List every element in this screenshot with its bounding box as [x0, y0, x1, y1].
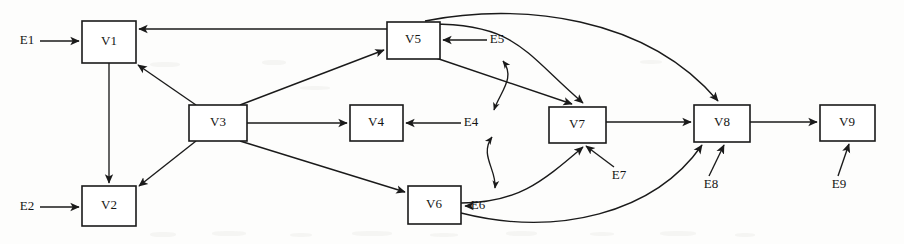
node-v8[interactable]: V8	[694, 105, 750, 142]
bidir-e5-e4	[494, 61, 508, 110]
node-v4[interactable]: V4	[350, 105, 403, 141]
node-v3[interactable]: V3	[189, 105, 247, 141]
node-v2[interactable]: V2	[82, 186, 136, 226]
node-v9[interactable]: V9	[820, 105, 875, 141]
edge-e7-v7	[586, 146, 614, 167]
ext-label-e8: E8	[704, 176, 718, 191]
node-v8-label: V8	[714, 114, 730, 129]
node-v7-label: V7	[569, 116, 585, 131]
node-v1-label: V1	[101, 33, 117, 48]
edge-v6-v7-curve	[461, 147, 583, 203]
edge-v6-v8-curve	[461, 145, 702, 222]
edge-v3-v2	[139, 141, 196, 186]
graph-diagram: V1 V2 V3 V4 V5 V6 V7 V8	[0, 0, 904, 244]
edge-v5-v7-diagonal	[436, 58, 572, 104]
ext-label-e4: E4	[464, 114, 479, 129]
node-layer: V1 V2 V3 V4 V5 V6 V7 V8	[82, 21, 875, 226]
ext-label-e6: E6	[471, 197, 486, 212]
edge-e8-v8	[709, 145, 724, 176]
node-v7[interactable]: V7	[549, 107, 606, 143]
edge-v3-v1	[138, 65, 196, 105]
edge-v3-v5	[240, 50, 384, 105]
node-v5-label: V5	[405, 31, 421, 46]
node-v2-label: V2	[101, 197, 117, 212]
node-v4-label: V4	[368, 114, 384, 129]
ext-label-e2: E2	[20, 198, 34, 213]
ext-label-e9: E9	[832, 176, 846, 191]
edge-v3-v6	[240, 141, 405, 192]
bidir-e4-e6	[487, 137, 495, 188]
edge-e9-v9	[838, 144, 849, 176]
node-v1[interactable]: V1	[82, 21, 136, 63]
ext-label-e1: E1	[20, 32, 34, 47]
node-v3-label: V3	[210, 114, 226, 129]
node-v6-label: V6	[426, 196, 442, 211]
node-v5[interactable]: V5	[387, 22, 440, 59]
node-v6[interactable]: V6	[408, 186, 461, 224]
ext-label-e7: E7	[612, 167, 627, 182]
node-v9-label: V9	[839, 114, 855, 129]
ext-label-e5: E5	[490, 31, 504, 46]
